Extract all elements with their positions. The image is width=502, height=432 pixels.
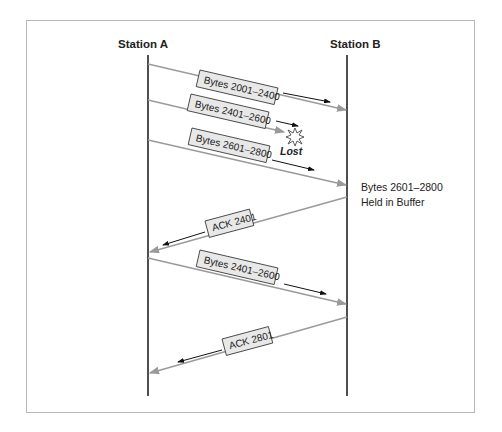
buffer-note-line-1: Bytes 2601–2800	[361, 180, 443, 195]
buffer-note-line-2: Held in Buffer	[361, 195, 443, 210]
message-3: Bytes 2601–2800	[148, 128, 346, 185]
message-4: ACK 2401	[150, 197, 347, 252]
lost-label: Lost	[280, 145, 303, 157]
message-6: ACK 2801	[150, 317, 347, 373]
message-1: Bytes 2001–2400	[148, 64, 346, 110]
buffer-note: Bytes 2601–2800 Held in Buffer	[361, 180, 443, 210]
message-5: Bytes 2401–2600	[148, 250, 346, 304]
lost-burst-icon	[286, 128, 304, 146]
sequence-diagram: Bytes 2001–2400 Bytes 2401–2600 Lost Byt…	[0, 0, 502, 432]
